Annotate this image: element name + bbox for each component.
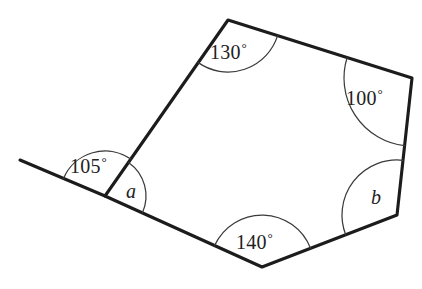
angle-label-interior-left: a [126, 180, 137, 201]
angle-value-exterior-left: 105 [70, 155, 101, 177]
degree-symbol-exterior-left: ° [101, 154, 107, 169]
angle-value-interior-left: a [126, 180, 136, 202]
angle-value-interior-right-upper: 100 [346, 87, 377, 109]
angle-value-interior-top: 130 [210, 41, 241, 63]
angle-label-interior-right-upper: 100° [346, 87, 383, 108]
degree-symbol-interior-right-upper: ° [377, 86, 383, 101]
angle-label-interior-top: 130° [210, 41, 247, 62]
angle-value-interior-right-lower: b [371, 186, 381, 208]
angle-label-interior-bottom: 140° [236, 231, 273, 252]
degree-symbol-interior-bottom: ° [267, 230, 273, 245]
angle-label-exterior-left: 105° [70, 155, 107, 176]
angle-label-interior-right-lower: b [371, 186, 382, 207]
geometry-diagram: 105° a 130° 100° b 140° [0, 0, 422, 289]
angle-value-interior-bottom: 140 [236, 231, 267, 253]
degree-symbol-interior-top: ° [241, 40, 247, 55]
